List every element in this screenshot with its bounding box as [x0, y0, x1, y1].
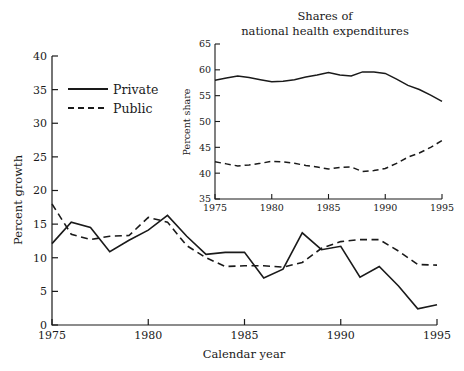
inset-y-tick-label: 55: [199, 90, 211, 101]
main-x-axis-title: Calendar year: [203, 347, 286, 361]
inset-y-tick-labels: 35404550556065: [199, 38, 211, 204]
inset-y-axis: 35404550556065 Percent share: [181, 38, 220, 204]
inset-x-tick-label: 1995: [430, 202, 454, 213]
inset-x-tick-label: 1985: [316, 202, 340, 213]
main-x-tick-label: 1985: [231, 329, 259, 342]
main-y-tick-label: 20: [33, 184, 47, 197]
inset-title-line-2: national health expenditures: [241, 24, 409, 38]
inset-chart: Shares of national health expenditures 3…: [181, 9, 454, 213]
inset-axis-lines: [215, 44, 442, 199]
main-x-ticks: [52, 319, 437, 325]
chart-svg: 0510152025303540 Percent growth 19751980…: [0, 0, 464, 371]
inset-title-line-1: Shares of: [297, 9, 353, 23]
inset-y-tick-label: 60: [199, 64, 211, 75]
main-y-tick-label: 40: [33, 50, 47, 63]
main-y-tick-label: 25: [33, 151, 47, 164]
main-y-tick-label: 35: [33, 84, 47, 97]
main-axis-lines: [52, 56, 437, 325]
main-y-tick-labels: 0510152025303540: [33, 50, 47, 332]
main-x-tick-label: 1975: [38, 329, 66, 342]
main-y-tick-label: 10: [33, 252, 47, 265]
inset-y-tick-label: 65: [199, 38, 211, 49]
legend-label-private: Private: [113, 82, 158, 97]
main-y-axis: 0510152025303540 Percent growth: [11, 50, 58, 332]
inset-x-tick-label: 1980: [260, 202, 284, 213]
inset-x-tick-labels: 19751980198519901995: [203, 202, 454, 213]
inset-y-tick-label: 40: [199, 168, 211, 179]
legend: Private Public: [68, 82, 158, 116]
main-y-tick-label: 5: [40, 285, 47, 298]
main-series-public: [52, 204, 437, 267]
inset-x-ticks: [215, 194, 442, 199]
inset-y-tick-label: 50: [199, 116, 211, 127]
main-x-tick-labels: 19751980198519901995: [38, 329, 451, 342]
inset-x-tick-label: 1975: [203, 202, 227, 213]
main-x-tick-label: 1980: [134, 329, 162, 342]
figure-container: 0510152025303540 Percent growth 19751980…: [0, 0, 464, 371]
inset-series-public: [215, 141, 442, 172]
main-x-tick-label: 1995: [423, 329, 451, 342]
legend-label-public: Public: [113, 101, 152, 116]
main-series-private: [52, 215, 437, 308]
inset-series-private: [215, 72, 442, 101]
main-y-axis-title: Percent growth: [11, 154, 25, 245]
inset-y-tick-label: 45: [199, 142, 211, 153]
inset-x-axis: 19751980198519901995: [203, 194, 454, 213]
main-x-tick-label: 1990: [327, 329, 355, 342]
inset-x-tick-label: 1990: [373, 202, 397, 213]
main-y-ticks: [52, 56, 58, 325]
inset-y-axis-title: Percent share: [181, 88, 192, 155]
inset-y-ticks: [215, 44, 220, 199]
main-y-tick-label: 30: [33, 117, 47, 130]
main-y-tick-label: 15: [33, 218, 47, 231]
